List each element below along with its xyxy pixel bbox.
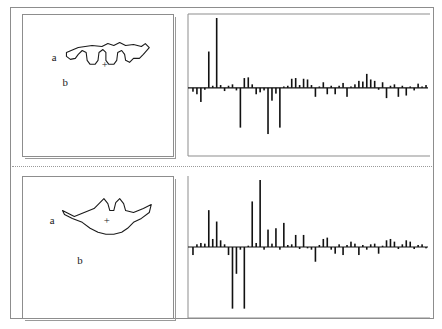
panel-row-top: a b + xyxy=(10,8,434,163)
chart-bar xyxy=(366,74,368,88)
chart-bar xyxy=(326,238,328,247)
chart-bar xyxy=(421,244,423,247)
chart-bar xyxy=(398,247,400,249)
chart-bar xyxy=(334,247,336,254)
chart-bar xyxy=(307,247,309,248)
chart-bar xyxy=(362,82,364,88)
chart-bar xyxy=(370,244,372,247)
chart-bar xyxy=(330,86,332,88)
chart-bar xyxy=(378,88,380,90)
chart-bar xyxy=(220,240,222,247)
chart-bar xyxy=(398,88,400,97)
chart-bar xyxy=(267,88,269,134)
chart-bar xyxy=(192,247,194,255)
chart-bar xyxy=(303,235,305,247)
chart-bar xyxy=(228,247,230,255)
chart-bar xyxy=(271,244,273,247)
chart-bar xyxy=(319,245,321,247)
chart-bar xyxy=(342,83,344,88)
chart-bar xyxy=(354,244,356,247)
panel-row-bottom: a b + xyxy=(10,170,434,325)
chart-bar xyxy=(299,247,301,249)
chart-bar xyxy=(405,240,407,247)
chart-bar xyxy=(390,86,392,88)
chart-bar xyxy=(307,79,309,87)
chart-bar xyxy=(255,88,257,94)
chart-bar xyxy=(374,244,376,247)
chart-bar xyxy=(323,239,325,247)
chart-bar xyxy=(378,247,380,254)
panel-divider xyxy=(12,166,432,167)
chart-bar xyxy=(374,81,376,88)
chart-bar xyxy=(240,247,242,250)
chart-bar xyxy=(224,88,226,91)
chart-bar xyxy=(216,18,218,88)
chart-bar xyxy=(330,247,332,250)
chart-bar xyxy=(413,88,415,91)
chart-bar xyxy=(263,247,265,250)
outline-shape-svg-bottom: a b + xyxy=(23,177,173,318)
chart-bar xyxy=(311,85,313,88)
chart-bar xyxy=(232,247,234,309)
chart-bar xyxy=(192,88,194,92)
chart-bar xyxy=(315,88,317,97)
centroid-marker-bottom: + xyxy=(104,214,110,226)
centroid-marker-top: + xyxy=(102,58,108,70)
chart-bar xyxy=(370,79,372,87)
shape-panel-bottom: a b + xyxy=(22,176,174,319)
chart-bar xyxy=(224,244,226,247)
chart-bar xyxy=(291,79,293,88)
chart-bar xyxy=(212,239,214,247)
chart-bar xyxy=(421,86,423,87)
chart-bar xyxy=(240,88,242,128)
bars-group-top xyxy=(188,18,428,134)
chart-bar xyxy=(291,244,293,247)
chart-bar xyxy=(382,246,384,247)
chart-bar xyxy=(244,247,246,309)
chart-bar xyxy=(346,88,348,97)
chart-bar xyxy=(346,245,348,247)
chart-bar xyxy=(323,82,325,88)
chart-bar xyxy=(350,86,352,87)
chart-bar xyxy=(342,247,344,255)
chart-bar xyxy=(417,84,419,88)
chart-bar xyxy=(319,86,321,87)
chart-bar xyxy=(263,88,265,91)
chart-bar xyxy=(216,222,218,247)
chart-bar xyxy=(394,242,396,247)
chart-bar xyxy=(362,245,364,247)
chart-bar xyxy=(386,240,388,247)
shape-panel-top: a b + xyxy=(22,14,174,157)
chart-bar xyxy=(279,247,281,250)
chart-bar xyxy=(358,81,360,88)
chart-bar xyxy=(413,247,415,249)
chart-bar xyxy=(200,88,202,102)
chart-bar xyxy=(295,235,297,247)
chart-bar xyxy=(200,243,202,247)
bar-chart-svg-bottom xyxy=(182,172,432,322)
chart-bar xyxy=(236,247,238,274)
chart-bar xyxy=(228,86,230,88)
shape-label-b-top: b xyxy=(63,76,68,88)
chart-bar xyxy=(259,180,261,247)
chart-bar xyxy=(354,84,356,87)
chart-bar xyxy=(390,239,392,247)
shape-label-a-bottom: a xyxy=(50,214,55,226)
bar-chart-svg-top xyxy=(182,10,432,160)
chart-bar xyxy=(251,201,253,247)
shape-label-b-bottom: b xyxy=(77,254,82,266)
chart-bar xyxy=(255,243,257,247)
chart-bar xyxy=(334,88,336,94)
chart-bar xyxy=(338,244,340,247)
chart-bar xyxy=(204,244,206,247)
chart-bar xyxy=(299,85,301,88)
chart-bar xyxy=(271,88,273,101)
chart-bar xyxy=(232,84,234,87)
chart-bar xyxy=(220,85,222,88)
shape-label-a-top: a xyxy=(52,51,57,63)
chart-bar xyxy=(208,210,210,247)
chart-panel-bottom xyxy=(182,172,432,322)
chart-bar xyxy=(409,242,411,247)
chart-bar xyxy=(350,242,352,247)
chart-bar xyxy=(358,247,360,255)
